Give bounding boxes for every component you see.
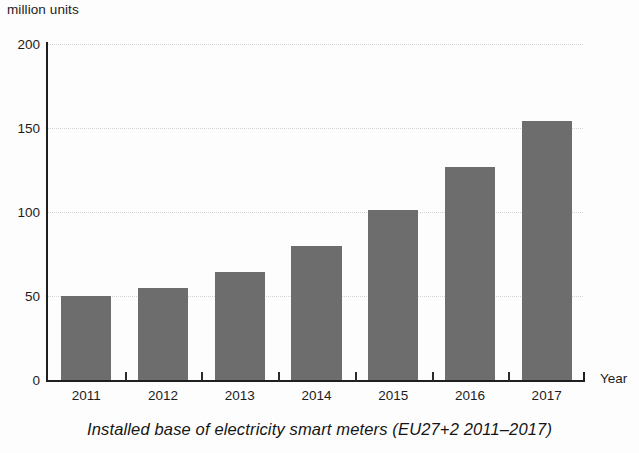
bar-2017 bbox=[522, 121, 572, 380]
y-tick-label-50: 50 bbox=[2, 289, 40, 304]
bar-2011 bbox=[61, 296, 111, 380]
y-tick-label-200: 200 bbox=[2, 37, 40, 52]
x-tick-label-2013: 2013 bbox=[225, 388, 255, 403]
x-tick-label-2017: 2017 bbox=[532, 388, 562, 403]
bar-2013 bbox=[215, 272, 265, 380]
bar-2016 bbox=[445, 167, 495, 380]
x-tick-5 bbox=[432, 372, 434, 381]
y-axis-tick-labels: 050100150200 bbox=[0, 0, 40, 453]
x-tick-label-2015: 2015 bbox=[378, 388, 408, 403]
bar-2015 bbox=[368, 210, 418, 380]
y-tick-label-150: 150 bbox=[2, 121, 40, 136]
figure-caption: Installed base of electricity smart mete… bbox=[0, 420, 639, 439]
x-tick-6 bbox=[508, 372, 510, 381]
x-tick-1 bbox=[125, 372, 127, 381]
bar-series bbox=[48, 44, 585, 380]
chart-figure: million units 050100150200 2011201220132… bbox=[0, 0, 639, 453]
x-tick-2 bbox=[201, 372, 203, 381]
bar-2014 bbox=[291, 246, 341, 380]
x-tick-label-2016: 2016 bbox=[455, 388, 485, 403]
x-tick-label-2014: 2014 bbox=[301, 388, 331, 403]
x-tick-4 bbox=[355, 372, 357, 381]
x-axis-line bbox=[46, 380, 585, 382]
x-tick-label-2011: 2011 bbox=[72, 388, 101, 403]
y-tick-label-0: 0 bbox=[2, 373, 40, 388]
x-tick-label-2012: 2012 bbox=[148, 388, 178, 403]
x-axis-title: Year bbox=[600, 371, 627, 386]
y-tick-label-100: 100 bbox=[2, 205, 40, 220]
bar-2012 bbox=[138, 288, 188, 380]
x-tick-3 bbox=[278, 372, 280, 381]
